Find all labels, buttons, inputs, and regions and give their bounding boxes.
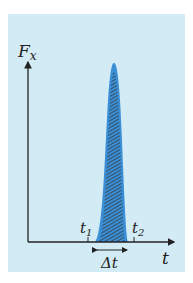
y-axis-subscript: x	[30, 49, 37, 63]
x-axis-label: t	[162, 248, 169, 268]
t2-subscript: 2	[137, 227, 144, 238]
svg-text:t1: t1	[80, 219, 92, 238]
t1-subscript: 1	[86, 227, 92, 238]
impulse-diagram: Fx t1 t2 t Δt	[0, 0, 193, 283]
delta-t-label: Δt	[100, 254, 119, 272]
svg-text:t2: t2	[132, 219, 144, 238]
svg-text:Fx: Fx	[17, 41, 37, 63]
